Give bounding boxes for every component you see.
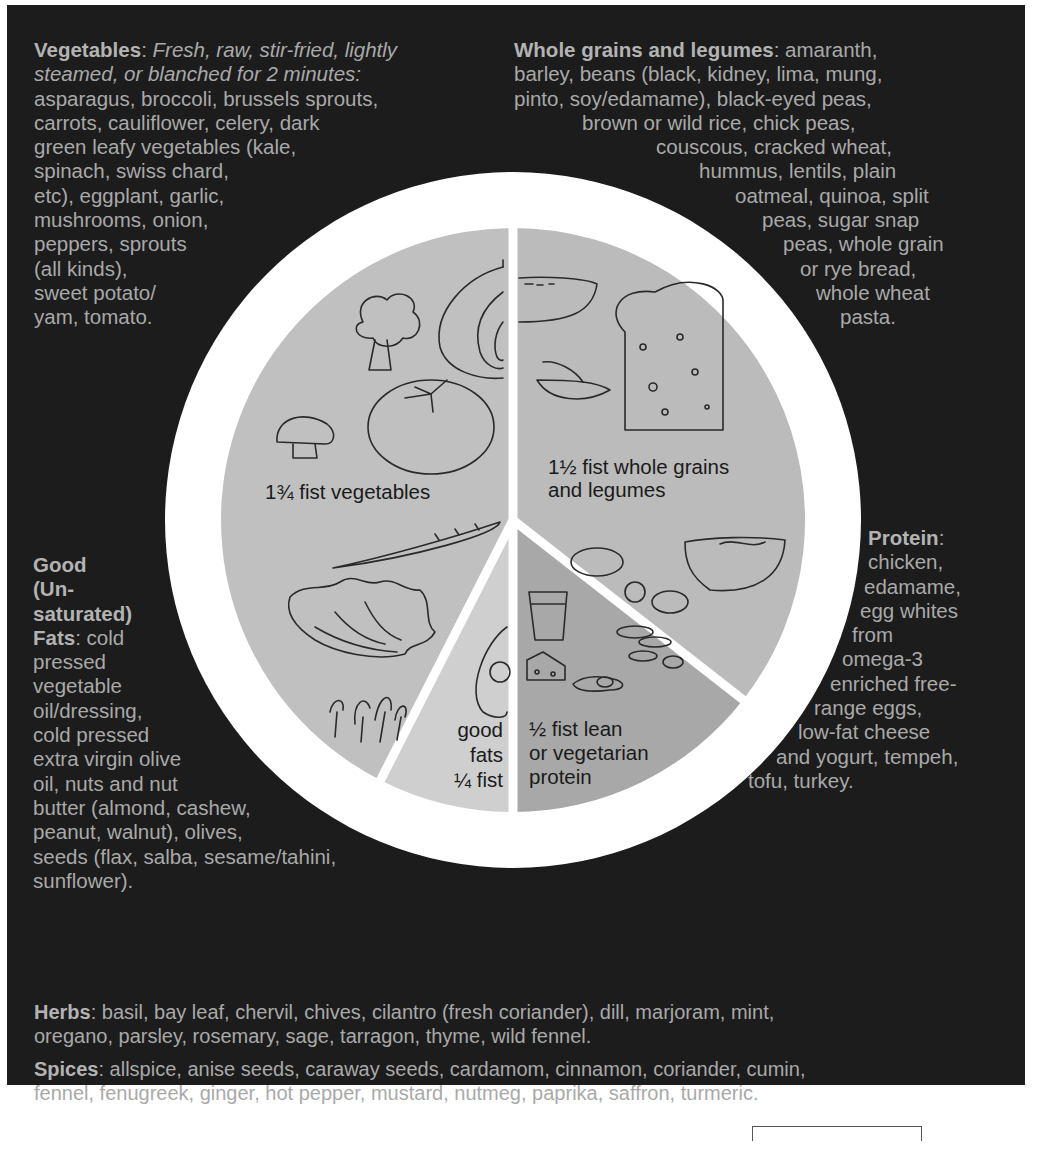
grains-portion-label: 1½ fist whole grains and legumes [548,455,729,501]
spices-heading: Spices [34,1058,98,1080]
vegetables-heading: Vegetables [34,38,141,61]
herbs-description: Herbs: basil, bay leaf, chervil, chives,… [34,1000,774,1048]
fats-portion-label: good fats ¼ fist [427,717,503,792]
grains-heading: Whole grains and legumes [514,38,774,61]
plate-pie-svg [165,172,861,868]
footer-outline-box [752,1126,922,1141]
protein-heading: Protein [868,526,939,549]
spices-description: Spices: allspice, anise seeds, caraway s… [34,1057,806,1105]
plate-pie-diagram: 1¾ fist vegetables 1½ fist whole grains … [165,172,861,868]
herbs-heading: Herbs [34,1001,91,1023]
fats-heading: Good [33,553,87,576]
protein-portion-label: ½ fist lean or vegetarian protein [529,717,649,789]
vegetables-portion-label: 1¾ fist vegetables [265,480,430,503]
